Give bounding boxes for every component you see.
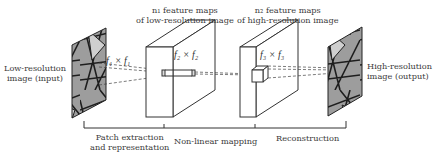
layer1-title: n₁ feature maps of low-resolution image [136, 5, 234, 25]
stage-patch-extraction: Patch extraction and representation [90, 132, 169, 152]
filter-size-f2: f₂ × f₂ [174, 49, 198, 60]
filter-size-f1: f₁ × f₁ [106, 55, 130, 66]
layer2-title: n₂ feature maps of high-resolution image [237, 5, 339, 25]
stage-reconstruction: Reconstruction [276, 133, 339, 143]
output-image [328, 27, 362, 116]
feature-maps-box-2 [240, 20, 298, 117]
input-image [72, 28, 106, 118]
input-label: Low-resolution image (input) [4, 63, 66, 83]
output-label: High-resolution image (output) [367, 61, 432, 81]
stage-bracket [84, 121, 346, 128]
stage-non-linear-mapping: Non-linear mapping [174, 136, 257, 146]
feature-maps-box-1 [146, 20, 215, 117]
filter-size-f3: f₃ × f₃ [260, 49, 284, 60]
